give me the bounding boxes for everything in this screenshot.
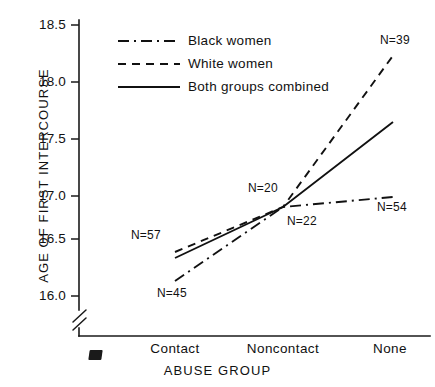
legend-swatch-solid-icon xyxy=(118,81,180,93)
x-tick-label-none: None xyxy=(350,341,430,356)
legend-label-both-groups-combined: Both groups combined xyxy=(188,79,329,94)
y-axis-title: AGE OF FIRST INTERCOURSE xyxy=(36,61,51,291)
legend-label-white-women: White women xyxy=(188,56,273,71)
legend-item-both-groups-combined: Both groups combined xyxy=(118,75,348,98)
legend-item-white-women: White women xyxy=(118,52,348,75)
legend-swatch-dashed-icon xyxy=(118,58,180,70)
annotation-black-women-noncontact: N=22 xyxy=(287,214,317,228)
origin-mark xyxy=(88,350,102,360)
legend: Black women White women Both groups comb… xyxy=(118,29,348,98)
legend-label-black-women: Black women xyxy=(188,33,272,48)
annotation-white-women-noncontact: N=20 xyxy=(248,181,278,195)
x-tick-label-noncontact: Noncontact xyxy=(229,341,337,356)
y-tick-label-18-5: 18.5 xyxy=(10,17,66,32)
figure-age-of-first-intercourse-by-abuse-group: 18.5 18.0 17.5 17.0 16.5 16.0 AGE OF FIR… xyxy=(0,0,435,387)
annotation-white-women-contact: N=57 xyxy=(131,228,161,242)
annotation-black-women-none: N=54 xyxy=(377,200,407,214)
annotation-white-women-none: N=39 xyxy=(380,33,410,47)
x-tick-label-contact: Contact xyxy=(125,341,225,356)
legend-item-black-women: Black women xyxy=(118,29,348,52)
annotation-black-women-contact: N=45 xyxy=(157,286,187,300)
legend-swatch-dash-dot-icon xyxy=(118,35,180,47)
x-axis-title: ABUSE GROUP xyxy=(0,363,435,378)
